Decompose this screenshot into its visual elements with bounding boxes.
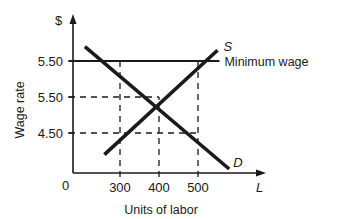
y-tick-label-0: 5.50 [38,54,63,69]
x-tick-label-0: 300 [109,180,131,195]
x-axis-arrow-icon [256,170,266,177]
x-axis-symbol: L [256,180,263,195]
supply-curve [104,50,217,154]
origin-label: 0 [62,178,69,193]
demand-curve-label: D [233,155,242,170]
x-tick-label-2: 500 [187,180,209,195]
y-axis-title: Wage rate [13,81,27,138]
y-tick-label-1: 5.50 [38,90,63,105]
x-tick-label-1: 400 [148,180,170,195]
minimum-wage-label: Minimum wage [224,55,308,69]
supply-curve-label: S [224,39,233,54]
labor-market-chart: $ L 0 Units of labor Wage rate 5.50 5.50… [0,0,348,219]
x-axis-title: Units of labor [124,203,198,217]
y-axis-symbol: $ [55,13,63,28]
y-axis-arrow-icon [70,14,77,24]
y-tick-label-2: 4.50 [38,126,63,141]
